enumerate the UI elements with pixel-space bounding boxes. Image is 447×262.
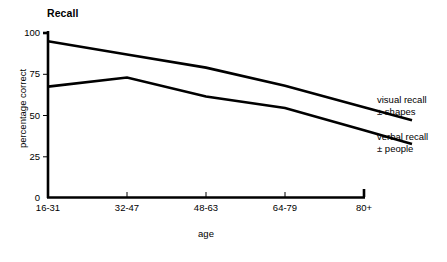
- plot-area: [0, 0, 447, 262]
- series-line-verbal-recall: [48, 78, 412, 144]
- chart-figure: Recall percentage correct age 0 25 50 75…: [0, 0, 447, 262]
- x-axis-ticks: [127, 189, 364, 197]
